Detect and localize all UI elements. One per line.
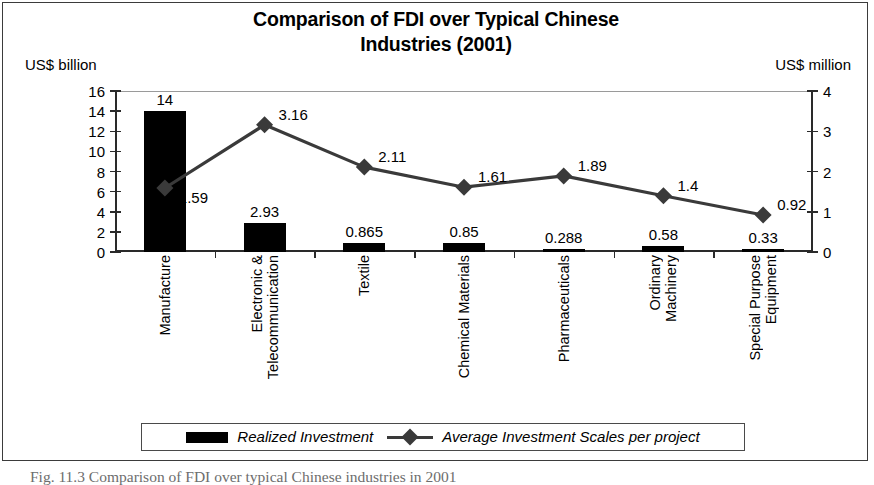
line-marker-1 <box>256 116 273 133</box>
right-axis-tick-label: 0 <box>823 245 831 260</box>
line-value-label-0: 1.59 <box>179 190 208 205</box>
line-value-label-1: 3.16 <box>279 107 308 122</box>
category-label-line: Ordinary <box>647 255 663 311</box>
line-value-label-6: 0.92 <box>777 197 806 212</box>
right-axis-tick-label: 3 <box>823 124 831 139</box>
chart-title-line-2: Industries (2001) <box>3 32 869 57</box>
line-value-label-5: 1.4 <box>677 178 698 193</box>
category-label-1: Electronic &Telecommunication <box>249 255 281 423</box>
bar-value-label-6: 0.33 <box>749 230 778 245</box>
left-axis-tick-label: 2 <box>97 225 105 240</box>
line-marker-2 <box>356 159 373 176</box>
line-marker-5 <box>655 187 672 204</box>
left-axis-unit-label: US$ billion <box>25 56 97 73</box>
category-label-5: OrdinaryMachinery <box>647 255 679 423</box>
legend-label-realized-investment: Realized Investment <box>237 429 373 445</box>
line-marker-6 <box>755 206 772 223</box>
left-axis-tick-label: 0 <box>97 245 105 260</box>
category-label-line: Manufacture <box>157 255 173 336</box>
left-axis-tick-label: 10 <box>88 144 105 159</box>
right-axis-tick-label: 1 <box>823 205 831 220</box>
bar-value-label-4: 0.288 <box>545 230 583 245</box>
line-marker-4 <box>555 167 572 184</box>
legend-bar-swatch-icon <box>186 432 228 443</box>
bar-value-label-2: 0.865 <box>346 224 384 239</box>
right-axis-tick-label: 2 <box>823 165 831 180</box>
category-label-6: Special PurposeEquipment <box>747 255 779 423</box>
line-value-label-4: 1.89 <box>578 158 607 173</box>
legend-item-average-investment-scales[interactable]: Average Investment Scales per project <box>387 429 699 445</box>
category-axis-labels: ManufactureElectronic &Telecommunication… <box>115 255 813 423</box>
right-axis-tick-label: 4 <box>823 84 831 99</box>
bar-value-label-1: 2.93 <box>250 204 279 219</box>
line-path <box>165 125 763 215</box>
left-axis-tick-label: 4 <box>97 205 105 220</box>
legend-line-diamond-swatch-icon <box>387 431 433 443</box>
category-label-4: Pharmaceuticals <box>556 255 572 423</box>
chart-title: Comparison of FDI over Typical Chinese I… <box>3 7 869 57</box>
category-label-line: Pharmaceuticals <box>556 255 572 362</box>
line-markers <box>156 116 771 223</box>
figure-caption: Fig. 11.3 Comparison of FDI over typical… <box>30 468 850 485</box>
left-axis-tick-label: 8 <box>97 165 105 180</box>
bar-value-label-3: 0.85 <box>449 224 478 239</box>
category-label-2: Textile <box>356 255 372 423</box>
plot-area: 0246810121416 01234 142.930.8650.850.288… <box>115 91 813 252</box>
left-axis-tick-label: 12 <box>88 124 105 139</box>
category-label-line: Machinery <box>663 255 679 322</box>
legend: Realized Investment Average Investment S… <box>141 423 745 451</box>
category-label-line: Chemical Materials <box>456 255 472 378</box>
line-marker-3 <box>456 179 473 196</box>
category-label-line: Special Purpose <box>747 255 763 361</box>
chart-title-line-1: Comparison of FDI over Typical Chinese <box>3 7 869 32</box>
category-label-line: Textile <box>356 255 372 296</box>
category-label-line: Electronic & <box>249 255 265 332</box>
category-label-line: Telecommunication <box>265 255 281 379</box>
left-axis-tick-label: 14 <box>88 104 105 119</box>
right-axis-unit-label: US$ million <box>775 56 851 73</box>
line-value-label-3: 1.61 <box>478 169 507 184</box>
left-axis-tick-label: 16 <box>88 84 105 99</box>
line-value-label-2: 2.11 <box>378 149 406 164</box>
category-label-3: Chemical Materials <box>456 255 472 423</box>
category-label-0: Manufacture <box>157 255 173 423</box>
bar-value-label-5: 0.58 <box>649 227 678 242</box>
bar-value-label-0: 14 <box>157 92 174 107</box>
category-label-line: Equipment <box>763 255 779 324</box>
line-marker-0 <box>156 180 173 197</box>
legend-item-realized-investment[interactable]: Realized Investment <box>186 429 373 445</box>
figure: Comparison of FDI over Typical Chinese I… <box>0 0 874 485</box>
left-axis-tick-label: 6 <box>97 185 105 200</box>
chart-frame: Comparison of FDI over Typical Chinese I… <box>2 2 868 461</box>
legend-label-average-investment-scales: Average Investment Scales per project <box>442 429 699 445</box>
